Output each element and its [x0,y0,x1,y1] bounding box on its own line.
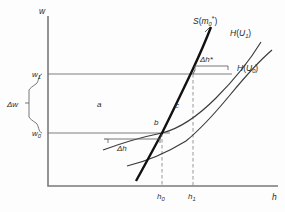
supply-arg: m [202,16,209,26]
curve-supply-s [136,27,211,181]
svg-text:h0: h0 [157,192,165,202]
tick-label-h0: h0 [157,192,165,202]
brace-delta-w [29,74,42,133]
hu0-paren-close: ) [255,63,258,73]
figure-container: w h w1 w0 h0 h1 S(m0*) [0,0,285,212]
annotation-delta-h-star: Δh* [199,55,214,64]
svg-text:H(U1): H(U1) [230,28,251,39]
tick-w1-sub: 1 [38,74,41,80]
svg-text:w0: w0 [32,129,42,139]
tick-h1-sub: 1 [192,196,195,202]
axis-lines [48,16,278,186]
tick-label-h1: h1 [188,192,196,202]
axis-label-w: w [39,6,46,16]
axis-label-h: h [272,192,277,202]
annotation-delta-h: Δh [116,144,127,153]
point-label-c: c [175,101,179,110]
tick-h0-sub: 0 [161,196,165,202]
supply-paren-close: ) [214,16,217,26]
region-label-a: a [97,100,102,109]
svg-text:w1: w1 [32,70,41,80]
svg-text:H(U0): H(U0) [237,63,258,74]
tick-label-w0: w0 [32,129,42,139]
tick-label-w1: w1 [32,70,41,80]
svg-text:S(m0*): S(m0*) [193,15,217,27]
point-label-b: b [154,118,159,127]
economics-diagram: w h w1 w0 h0 h1 S(m0*) [0,0,285,212]
brace-delta-h-star [195,66,228,70]
svg-text:h1: h1 [188,192,196,202]
annotation-delta-w: Δw [6,100,19,109]
curve-label-hicksian-u0: H(U0) [237,63,258,74]
curve-label-hicksian-u1: H(U1) [230,28,251,39]
curve-hicksian-u1 [103,42,261,150]
tick-w0-sub: 0 [38,133,42,139]
curve-label-supply: S(m0*) [193,15,217,27]
hu1-paren-close: ) [248,28,251,38]
